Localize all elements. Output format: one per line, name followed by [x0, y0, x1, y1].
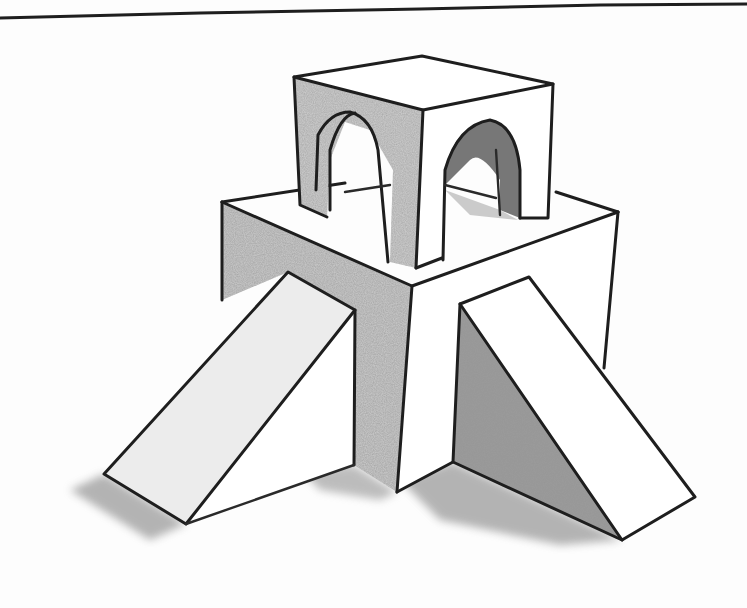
sketch-drawing — [0, 0, 747, 608]
top-cube-with-arches — [294, 56, 553, 268]
top-border-line — [0, 4, 747, 18]
pencil-sketch — [0, 0, 747, 608]
